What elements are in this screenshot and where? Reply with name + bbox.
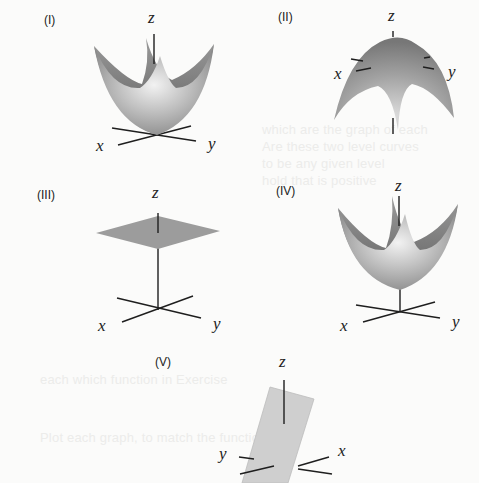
panel-ii-z-label: z xyxy=(388,6,395,26)
y-axis-line xyxy=(356,305,440,318)
paraboloid-front-surface xyxy=(338,204,458,290)
panel-iii-z-label: z xyxy=(152,183,159,203)
y-axis-tick-back xyxy=(424,57,430,58)
panel-iv-y-label: y xyxy=(452,312,460,332)
panel-v-y-label: y xyxy=(219,444,227,464)
panel-iii-x-label: x xyxy=(98,316,106,336)
panel-iv-z-label: z xyxy=(395,176,402,196)
panel-i-graph xyxy=(94,34,214,145)
panel-iii-y-label: y xyxy=(213,314,221,334)
panel-ii-y-label: y xyxy=(448,62,456,82)
cap-surface xyxy=(334,37,454,130)
panel-i-x-label: x xyxy=(96,136,104,156)
tilted-plane xyxy=(242,387,314,483)
panel-v-graph xyxy=(239,380,332,483)
x-axis-line xyxy=(298,457,329,466)
panel-v-z-label: z xyxy=(279,352,286,372)
panel-iii-graph xyxy=(96,213,220,322)
panel-v-x-label: x xyxy=(338,441,346,461)
x-axis-line-front xyxy=(298,469,332,474)
panel-ii-x-label: x xyxy=(334,64,342,84)
x-axis-line xyxy=(363,302,435,322)
panel-iv-x-label: x xyxy=(340,316,348,336)
panel-i-z-label: z xyxy=(148,8,155,28)
figure-canvas xyxy=(0,0,479,483)
panel-iv-graph xyxy=(338,196,458,322)
panel-ii-graph xyxy=(334,31,454,134)
panel-i-y-label: y xyxy=(208,134,216,154)
